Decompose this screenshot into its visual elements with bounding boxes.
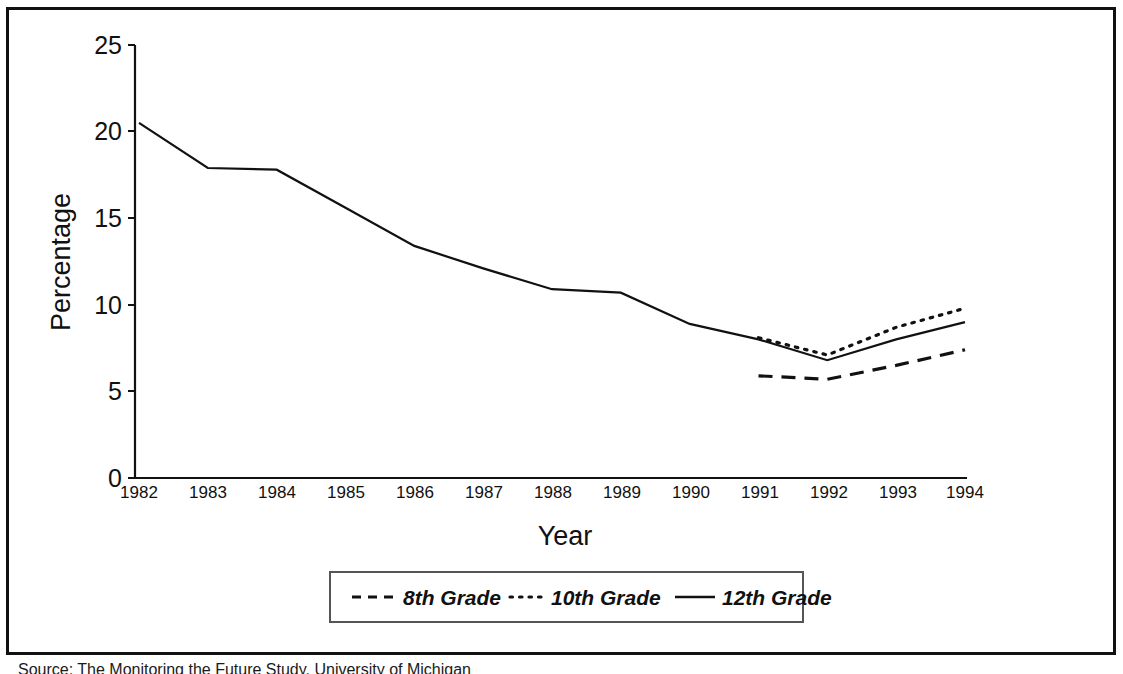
chart-legend: 8th Grade 10th Grade 12th Grade [330, 572, 832, 622]
x-tick-label: 1988 [534, 483, 572, 502]
y-tick-label: 15 [94, 204, 122, 232]
x-tick-label: 1989 [603, 483, 641, 502]
x-tick-label: 1986 [396, 483, 434, 502]
source-note: Source: The Monitoring the Future Study,… [18, 661, 1018, 674]
x-tick-label: 1994 [946, 483, 984, 502]
series-line-8th-grade [759, 350, 966, 380]
x-tick-label: 1990 [672, 483, 710, 502]
chart-container: 25 20 15 10 5 0 Percentage 1982 1983 198… [0, 0, 1123, 674]
x-tick-label: 1992 [810, 483, 848, 502]
x-tick-label: 1991 [741, 483, 779, 502]
x-tick-label: 1984 [258, 483, 296, 502]
series-line-12th-grade [139, 123, 965, 360]
y-tick-label: 20 [94, 117, 122, 145]
x-tick-label: 1983 [189, 483, 227, 502]
x-axis-title: Year [538, 521, 593, 551]
legend-label-8th-grade: 8th Grade [403, 586, 501, 609]
x-tick-label: 1982 [120, 483, 158, 502]
line-chart: 25 20 15 10 5 0 Percentage 1982 1983 198… [0, 0, 1123, 674]
x-tick-label: 1993 [879, 483, 917, 502]
y-axis-title: Percentage [46, 193, 76, 331]
y-tick-label: 5 [108, 377, 122, 405]
x-tick-label: 1987 [465, 483, 503, 502]
legend-label-12th-grade: 12th Grade [722, 586, 832, 609]
legend-label-10th-grade: 10th Grade [551, 586, 661, 609]
y-tick-label: 10 [94, 291, 122, 319]
x-tick-label: 1985 [327, 483, 365, 502]
y-tick-label: 25 [94, 31, 122, 59]
